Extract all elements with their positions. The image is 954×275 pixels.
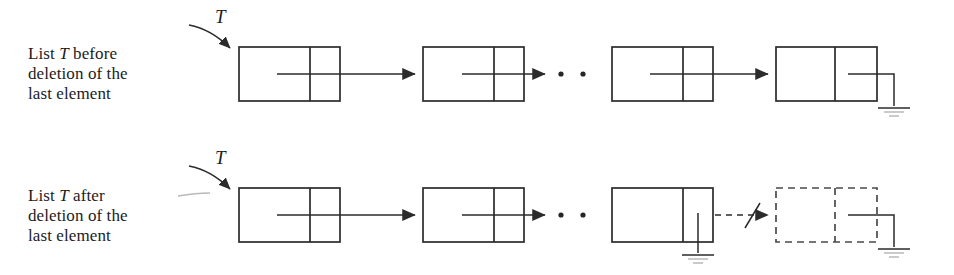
figure-canvas: [0, 0, 954, 275]
nil-ground-symbol-row1: [848, 74, 910, 116]
severed-link-slash-row2: [715, 203, 768, 228]
head-pointer-arrow-row2: [178, 166, 230, 196]
continuation-dots-row2: [558, 212, 585, 217]
linked-list-deletion-figure: List T before deletion of the last eleme…: [0, 0, 954, 275]
continuation-dots-row1: [558, 71, 585, 76]
head-pointer-arrow-row1: [189, 25, 230, 48]
nil-ground-symbol-deleted-row2: [848, 215, 910, 257]
nil-ground-symbol-row2: [682, 213, 714, 263]
